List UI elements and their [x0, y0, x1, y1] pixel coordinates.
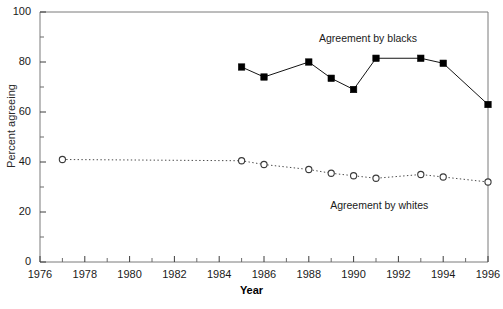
x-tick-label: 1976	[17, 268, 63, 280]
x-tick-label: 1994	[420, 268, 466, 280]
x-tick-label: 1980	[107, 268, 153, 280]
annotation-agreement-by-whites: Agreement by whites	[330, 199, 428, 211]
x-tick-label: 1982	[151, 268, 197, 280]
chart-background	[0, 0, 503, 309]
x-tick-label: 1984	[196, 268, 242, 280]
chart-svg	[0, 0, 503, 309]
x-tick-label: 1986	[241, 268, 287, 280]
x-tick-label: 1990	[331, 268, 377, 280]
x-tick-label: 1992	[375, 268, 421, 280]
x-tick-label: 1996	[465, 268, 503, 280]
y-tick-label: 100	[0, 5, 31, 17]
x-tick-label: 1978	[62, 268, 108, 280]
y-tick-label: 20	[0, 205, 31, 217]
y-tick-label: 0	[0, 255, 31, 267]
x-axis-title: Year	[0, 284, 503, 296]
chart-figure: 020406080100 197619781980198219841986198…	[0, 0, 503, 309]
y-axis-title: Percent agreeing	[5, 61, 17, 191]
annotation-agreement-by-blacks: Agreement by blacks	[319, 32, 417, 44]
chart-clip-area	[0, 0, 503, 309]
x-tick-label: 1988	[286, 268, 332, 280]
